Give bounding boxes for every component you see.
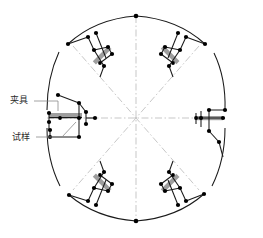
- label-specimen: 试样: [12, 131, 31, 142]
- node: [56, 93, 60, 97]
- node: [167, 170, 171, 174]
- fixture-arm-top-right-a: [180, 37, 205, 50]
- specimen-band-left: [49, 113, 82, 118]
- rig-drawing: 夹具 试样: [0, 0, 263, 238]
- node: [98, 61, 102, 65]
- node: [184, 199, 188, 203]
- station-right-nodes: [194, 108, 227, 144]
- fixture-arm-left-lower: [50, 130, 79, 137]
- node: [202, 192, 206, 196]
- node: [86, 199, 90, 203]
- node: [194, 116, 198, 120]
- node: [159, 182, 163, 186]
- node: [110, 182, 114, 186]
- arc-bottom-left: [69, 195, 136, 221]
- leader-specimen: [36, 122, 76, 137]
- node: [92, 186, 96, 190]
- node: [199, 116, 203, 120]
- node-bottom-apex: [134, 219, 139, 224]
- label-fixture: 夹具: [10, 94, 29, 105]
- node: [84, 110, 88, 114]
- node: [106, 189, 110, 193]
- node: [66, 42, 70, 46]
- node: [176, 31, 180, 35]
- node: [159, 52, 163, 56]
- node: [178, 186, 182, 190]
- node: [58, 116, 62, 120]
- station-top-left-135deg: [66, 31, 114, 77]
- arc-right-upper: [214, 53, 225, 110]
- node: [163, 189, 167, 193]
- node: [163, 45, 167, 49]
- node: [223, 108, 227, 112]
- node: [48, 128, 52, 132]
- fixture-tie-right: [219, 142, 223, 157]
- node: [184, 35, 188, 39]
- node: [207, 108, 211, 112]
- radial-test-rig-diagram: 夹具 试样: [0, 0, 263, 238]
- station-right-0deg: [194, 108, 227, 157]
- node: [171, 173, 175, 177]
- node: [98, 173, 102, 177]
- node: [84, 122, 88, 126]
- node: [47, 111, 51, 115]
- node: [77, 101, 81, 105]
- node: [178, 48, 182, 52]
- node: [106, 45, 110, 49]
- node: [110, 52, 114, 56]
- node: [47, 120, 51, 124]
- fixture-arm-right-lower: [209, 131, 219, 142]
- fixture-arm-bottom-right-a: [180, 188, 204, 201]
- node: [77, 116, 81, 120]
- node: [67, 193, 71, 197]
- node: [176, 203, 180, 207]
- fixture-arm-top-left-a: [68, 37, 94, 50]
- label-leader-lines: [34, 101, 76, 137]
- node: [203, 42, 207, 46]
- node: [217, 140, 221, 144]
- arc-top-left: [68, 16, 136, 44]
- fixture-arm-bottom-left-a: [69, 188, 94, 201]
- node: [221, 116, 225, 120]
- node: [102, 170, 106, 174]
- node: [167, 64, 171, 68]
- node: [93, 116, 97, 120]
- node: [207, 129, 211, 133]
- node: [94, 203, 98, 207]
- node: [94, 31, 98, 35]
- station-top-right-45deg: [159, 31, 207, 77]
- leader-fixture: [34, 101, 58, 111]
- node: [77, 135, 81, 139]
- node: [102, 64, 106, 68]
- node: [171, 61, 175, 65]
- fixture-arm-right-upper: [209, 110, 225, 131]
- station-bottom-right-315deg: [159, 161, 206, 207]
- station-bottom-left-225deg: [67, 161, 114, 207]
- node: [86, 35, 90, 39]
- node-top-apex: [134, 14, 139, 19]
- station-left-180deg: [47, 93, 97, 139]
- node: [92, 48, 96, 52]
